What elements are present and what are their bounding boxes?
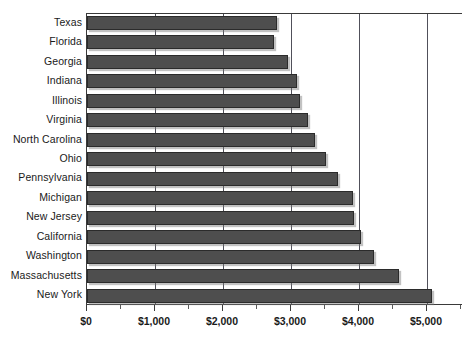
bar-row[interactable]: [87, 209, 463, 228]
category-label: Massachusetts: [0, 270, 82, 281]
tick-major: [426, 305, 427, 311]
bar[interactable]: [87, 172, 338, 186]
bar[interactable]: [87, 269, 399, 283]
bar[interactable]: [87, 94, 300, 108]
category-label: New York: [0, 289, 82, 300]
bar-row[interactable]: [87, 33, 463, 52]
category-label: Florida: [0, 36, 82, 47]
category-label: Pennsylvania: [0, 172, 82, 183]
category-label: Illinois: [0, 95, 82, 106]
tick-major: [222, 305, 223, 311]
tick-major: [358, 305, 359, 311]
value-tick-label: $2,000: [206, 315, 238, 327]
bar-row[interactable]: [87, 92, 463, 111]
bar[interactable]: [87, 35, 274, 49]
bar-row[interactable]: [87, 287, 463, 306]
value-tick-label: $0: [80, 315, 92, 327]
category-label: California: [0, 231, 82, 242]
bar[interactable]: [87, 191, 353, 205]
value-tick-label: $4,000: [342, 315, 374, 327]
bar-row[interactable]: [87, 248, 463, 267]
bar[interactable]: [87, 16, 277, 30]
bar[interactable]: [87, 289, 432, 303]
bar[interactable]: [87, 113, 308, 127]
tick-minor: [188, 305, 189, 309]
category-label: Georgia: [0, 56, 82, 67]
tick-minor: [256, 305, 257, 309]
plot-area: [86, 13, 462, 305]
value-axis-labels: $0$1,000$2,000$3,000$4,000$5,000: [0, 315, 475, 331]
bar[interactable]: [87, 211, 354, 225]
value-axis-ticks: [86, 305, 462, 312]
category-label: Washington: [0, 250, 82, 261]
bar-row[interactable]: [87, 72, 463, 91]
bar[interactable]: [87, 152, 326, 166]
bar-chart: TexasFloridaGeorgiaIndianaIllinoisVirgin…: [0, 0, 475, 352]
category-label: Michigan: [0, 192, 82, 203]
tick-minor: [120, 305, 121, 309]
tick-major: [86, 305, 87, 311]
bar-row[interactable]: [87, 14, 463, 33]
bar-row[interactable]: [87, 267, 463, 286]
bar-row[interactable]: [87, 170, 463, 189]
tick-minor: [324, 305, 325, 309]
category-label: Texas: [0, 17, 82, 28]
category-axis: TexasFloridaGeorgiaIndianaIllinoisVirgin…: [0, 13, 82, 305]
bar[interactable]: [87, 230, 361, 244]
bar[interactable]: [87, 133, 315, 147]
category-label: New Jersey: [0, 211, 82, 222]
category-label: Virginia: [0, 114, 82, 125]
bar-row[interactable]: [87, 131, 463, 150]
tick-major: [154, 305, 155, 311]
category-label: North Carolina: [0, 134, 82, 145]
value-tick-label: $3,000: [274, 315, 306, 327]
bar[interactable]: [87, 74, 297, 88]
bar[interactable]: [87, 250, 374, 264]
bar-row[interactable]: [87, 53, 463, 72]
value-tick-label: $1,000: [138, 315, 170, 327]
tick-minor: [460, 305, 461, 309]
bar-row[interactable]: [87, 150, 463, 169]
category-label: Indiana: [0, 75, 82, 86]
bar-row[interactable]: [87, 228, 463, 247]
category-label: Ohio: [0, 153, 82, 164]
bar[interactable]: [87, 55, 288, 69]
value-tick-label: $5,000: [410, 315, 442, 327]
tick-minor: [392, 305, 393, 309]
bar-row[interactable]: [87, 111, 463, 130]
tick-major: [290, 305, 291, 311]
bar-row[interactable]: [87, 189, 463, 208]
